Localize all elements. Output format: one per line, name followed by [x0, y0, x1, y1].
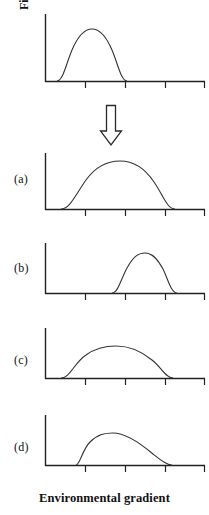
x-axis-label: Environmental gradient: [0, 491, 209, 506]
panel-a: (a): [0, 150, 209, 222]
fitness-curve: [76, 433, 172, 465]
transition-arrow: [96, 104, 126, 148]
fitness-gradient-figure: Fitness (a): [0, 0, 209, 515]
fitness-curve: [57, 29, 127, 81]
panel-b: (b): [0, 240, 209, 306]
panel-d: (d): [0, 412, 209, 478]
panel-c: (c): [0, 325, 209, 391]
down-block-arrow-icon: [96, 104, 126, 148]
fitness-curve: [112, 253, 177, 293]
fitness-curve: [61, 346, 173, 378]
panel-reference: [0, 10, 209, 94]
panel-d-plot: [0, 412, 209, 478]
panel-reference-plot: [0, 10, 209, 94]
fitness-curve: [61, 161, 175, 209]
panel-b-plot: [0, 240, 209, 306]
panel-a-plot: [0, 150, 209, 222]
panel-c-plot: [0, 325, 209, 391]
